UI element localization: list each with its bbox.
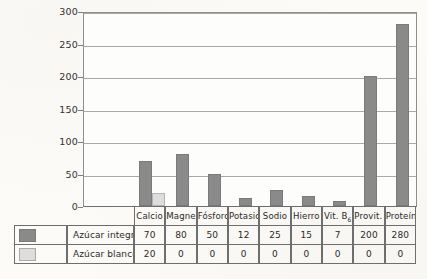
bar-azucar-integral (302, 196, 315, 206)
table-data-cell: 200 (353, 225, 384, 245)
table-data-cell: 20 (134, 244, 165, 264)
bar-azucar-integral (139, 161, 152, 207)
table-data-cell: 0 (291, 244, 322, 264)
table-header-cell: Fósforo (197, 206, 228, 226)
table-header-cell: Magnesio (165, 206, 196, 226)
data-table: CalcioMagnesioFósforoPotasioSodioHierroV… (15, 207, 417, 265)
table-data-cell: 0 (165, 244, 196, 264)
bar-group (167, 13, 198, 206)
table-row: Azúcar integral7080501225157200280 (15, 226, 417, 245)
bar-group (199, 13, 230, 206)
bar-group (293, 13, 324, 206)
bar-group (324, 13, 355, 206)
y-axis-tick-label: 100 (59, 137, 78, 147)
bar-group (261, 13, 292, 206)
bar-azucar-blanco (152, 193, 165, 206)
y-axis-tick-label: 50 (66, 170, 79, 180)
plot-area (83, 12, 417, 207)
legend-label: Azúcar blanco (67, 244, 134, 264)
bar-azucar-integral (208, 174, 221, 207)
table-data-cell: 25 (259, 225, 290, 245)
table-data-cell: 70 (134, 225, 165, 245)
table-header-row: CalcioMagnesioFósforoPotasioSodioHierroV… (15, 207, 417, 226)
light-swatch (19, 248, 36, 261)
chart-page: 300250200150100500 CalcioMagnesioFósforo… (0, 0, 427, 279)
y-axis-tick-label: 250 (59, 40, 78, 50)
bar-group (230, 13, 261, 206)
table-data-cell: 80 (165, 225, 196, 245)
bar-azucar-integral (239, 198, 252, 206)
bar-azucar-integral (270, 190, 283, 206)
table-header-cell: Calcio (134, 206, 165, 226)
dark-swatch (19, 229, 36, 242)
table-data-cell: 0 (197, 244, 228, 264)
table-data-cell: 0 (385, 244, 416, 264)
table-data-cell: 0 (259, 244, 290, 264)
bar-series-container (84, 13, 416, 206)
table-data-cell: 0 (322, 244, 353, 264)
table-data-cell: 0 (353, 244, 384, 264)
bar-group (387, 13, 418, 206)
subscript: 6 (347, 216, 351, 223)
table-data-cell: 50 (197, 225, 228, 245)
bar-azucar-integral (364, 76, 377, 206)
table-header-cell: Potasio (228, 206, 259, 226)
table-data-cell: 280 (385, 225, 416, 245)
legend-swatch-cell (14, 244, 67, 264)
table-header-cell: Sodio (259, 206, 290, 226)
bar-azucar-integral (176, 154, 189, 206)
table-data-cell: 15 (291, 225, 322, 245)
y-axis-tick-label: 200 (59, 72, 78, 82)
table-header-cell: Provit. A (353, 206, 384, 226)
bar-group (355, 13, 386, 206)
legend-swatch-cell (14, 225, 67, 245)
table-header-cell: Hierro (291, 206, 322, 226)
table-row: Azúcar blanco2000000000 (15, 245, 417, 264)
table-header-cell: Vit. B6 (322, 206, 353, 226)
y-axis-tick-label: 300 (59, 7, 78, 17)
table-data-cell: 7 (322, 225, 353, 245)
bar-azucar-integral (396, 24, 409, 206)
bar-group (136, 13, 167, 206)
y-axis-labels: 300250200150100500 (40, 0, 78, 215)
table-data-cell: 0 (228, 244, 259, 264)
legend-label: Azúcar integral (67, 225, 134, 245)
table-header-cell: Proteínas (385, 206, 416, 226)
y-axis-tick-label: 150 (59, 105, 78, 115)
table-data-cell: 12 (228, 225, 259, 245)
